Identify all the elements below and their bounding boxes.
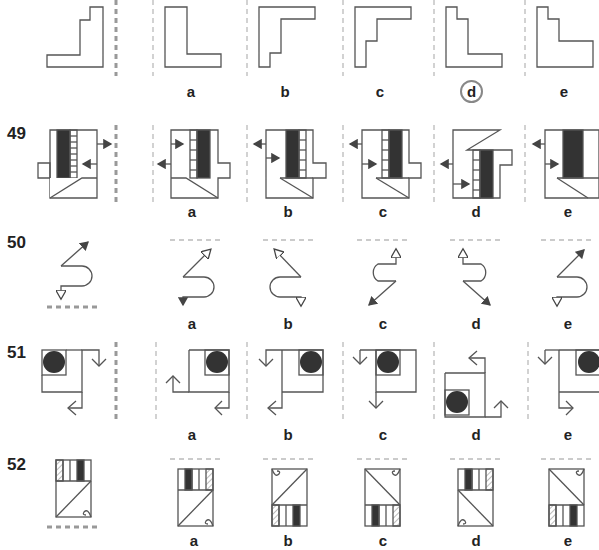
q48-option-c: [355, 7, 411, 67]
option-label-a[interactable]: a: [181, 83, 201, 100]
question-number-52: 52: [7, 455, 26, 475]
question-number-51: 51: [7, 343, 26, 363]
option-label-e[interactable]: e: [554, 83, 574, 100]
q50-option-a: [183, 250, 214, 305]
q49-prompt-shape: [38, 130, 111, 198]
q51-option-label-a[interactable]: a: [182, 426, 202, 443]
q52-prompt-shape: [56, 460, 91, 517]
q49-option-a: [158, 130, 230, 198]
q52-option-label-d[interactable]: d: [466, 532, 486, 549]
q48-option-e: [537, 7, 593, 67]
question-number-50: 50: [7, 233, 26, 253]
q49-option-label-a[interactable]: a: [182, 203, 202, 220]
q49-option-label-e[interactable]: e: [558, 203, 578, 220]
option-label-c[interactable]: c: [370, 83, 390, 100]
option-label-b[interactable]: b: [275, 83, 295, 100]
q51-option-e: [538, 350, 599, 415]
q52-option-d: [458, 469, 493, 526]
q52-option-a: [178, 469, 213, 526]
q49-option-b: [254, 130, 326, 198]
q50-option-c: [369, 250, 396, 305]
q50-option-label-a[interactable]: a: [182, 315, 202, 332]
q49-option-e: [533, 130, 599, 198]
q52-option-label-b[interactable]: b: [278, 532, 298, 549]
q51-option-label-c[interactable]: c: [373, 426, 393, 443]
q51-option-a: [166, 350, 229, 415]
q48-option-b: [259, 7, 315, 67]
q49-option-label-b[interactable]: b: [278, 203, 298, 220]
q50-option-label-c[interactable]: c: [373, 315, 393, 332]
q50-option-e: [557, 250, 587, 305]
q48-prompt-shape: [47, 7, 103, 67]
q52-option-label-a[interactable]: a: [184, 532, 204, 549]
q49-option-c: [350, 130, 421, 198]
q51-option-label-b[interactable]: b: [278, 426, 298, 443]
q51-option-label-e[interactable]: e: [558, 426, 578, 443]
q49-option-d: [441, 130, 512, 198]
q52-option-b: [272, 469, 307, 526]
q50-prompt-shape: [61, 242, 92, 298]
q48-option-d: [446, 7, 502, 67]
q49-option-label-d[interactable]: d: [466, 203, 486, 220]
option-label-d-selected[interactable]: d: [460, 80, 483, 103]
q51-option-c: [353, 350, 416, 408]
puzzle-canvas: [0, 0, 599, 550]
q51-option-label-d[interactable]: d: [466, 426, 486, 443]
q50-option-b: [270, 250, 301, 305]
q48-option-a: [165, 7, 221, 67]
q52-option-label-e[interactable]: e: [558, 532, 578, 549]
q50-option-label-e[interactable]: e: [558, 315, 578, 332]
question-number-49: 49: [7, 124, 26, 144]
q52-option-label-c[interactable]: c: [373, 532, 393, 549]
q50-option-label-d[interactable]: d: [466, 315, 486, 332]
q50-option-label-b[interactable]: b: [278, 315, 298, 332]
q51-option-d: [445, 351, 508, 417]
q49-option-label-c[interactable]: c: [373, 203, 393, 220]
q51-prompt-shape: [42, 350, 106, 415]
q52-option-e: [549, 469, 584, 526]
q51-option-b: [259, 350, 323, 415]
q52-option-c: [365, 469, 400, 526]
q50-option-d: [463, 250, 490, 305]
